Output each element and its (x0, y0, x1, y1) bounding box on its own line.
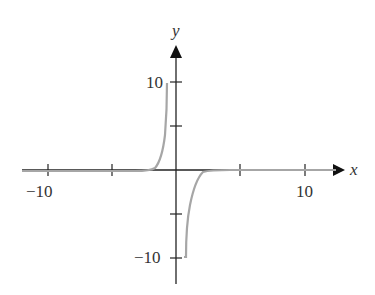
y-tick-label-neg10: −10 (134, 248, 161, 267)
x-tick-label-neg10: −10 (26, 182, 53, 201)
y-axis-label: y (170, 21, 180, 40)
x-tick-label-pos10: 10 (296, 182, 313, 201)
curve-left-branch (22, 83, 167, 171)
y-axis-arrow-icon (170, 45, 182, 58)
chart-canvas: y x −10 10 10 −10 (0, 0, 375, 295)
curve-right-branch (184, 170, 336, 257)
y-tick-label-pos10: 10 (146, 73, 163, 92)
x-axis-label: x (349, 160, 358, 179)
